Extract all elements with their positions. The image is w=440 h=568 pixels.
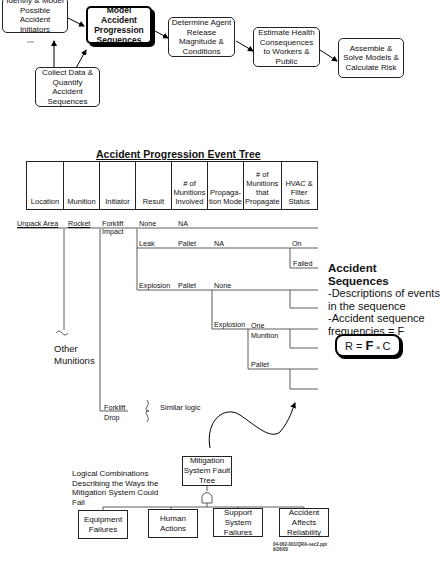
event-tree-title: Accident Progression Event Tree [96, 148, 261, 160]
flow-box-risk: Assemble & Solve Models & Calculate Risk [338, 38, 404, 78]
label-one-munition: One Munition [251, 321, 287, 341]
label-result-leak: Leak [139, 240, 155, 248]
fault-tree-child-reliability: Accident Affects Reliability [279, 508, 329, 537]
fault-tree-child-text: Support System Failures [214, 508, 262, 538]
label-similar-logic: Similar logic [160, 404, 200, 412]
label-result-none: None [139, 220, 156, 228]
column-header: Munition [64, 162, 100, 210]
fault-tree-child-support: Support System Failures [213, 508, 263, 537]
column-header: Propaga-tion Mode [208, 162, 244, 210]
label-na-1: NA [178, 220, 188, 228]
flow-box-progression: Model Accident Progression Sequences [86, 6, 152, 44]
accident-sequences-block: Accident Sequences -Descriptions of even… [328, 262, 440, 337]
fault-tree-child-text: Accident Affects Reliability [280, 508, 328, 538]
label-na-2: NA [214, 240, 224, 248]
flow-box-release: Determine Agent Release Magnitude & Cond… [168, 17, 235, 57]
footer-date: 9/26/00 [273, 547, 327, 552]
label-initiator-impact: Forklift Impact [102, 220, 132, 236]
label-prop-none: None [214, 282, 231, 290]
flow-box-text: Model Accident Progression Sequences [90, 5, 148, 45]
label-pallet-prop: Pallet [251, 361, 269, 369]
column-header: HVAC & Filter Status [281, 162, 317, 210]
accident-sequences-heading: Accident Sequences [328, 262, 440, 287]
label-munition: Rocket [68, 220, 90, 228]
label-result-explosion: Explosion [139, 282, 170, 290]
accident-sequences-line1: -Descriptions of events in the sequence [328, 287, 440, 312]
column-header: # of Munitions that Propagate [244, 162, 282, 210]
flow-box-data: Collect Data & Quantify Accident Sequenc… [35, 67, 100, 107]
fault-tree-top-text: Mitigation System Fault Tree [183, 456, 231, 486]
label-prop-explosion: Explosion [214, 321, 245, 329]
fault-tree-child-text: Human Actions [149, 514, 197, 534]
risk-equation: R = F × C [335, 334, 401, 357]
flow-box-text: Collect Data & Quantify Accident Sequenc… [38, 68, 97, 106]
label-pallet-explosion: Pallet [178, 282, 196, 290]
flow-box-text: Determine Agent Release Magnitude & Cond… [171, 18, 232, 56]
label-location: Unpack Area [17, 220, 58, 228]
column-header: Location [27, 162, 64, 210]
fault-tree-child-text: Equipment Failures [79, 515, 127, 535]
label-initiator-drop: Forklift Drop [104, 403, 128, 422]
flow-box-text: Assemble & Solve Models & Calculate Risk [341, 44, 401, 73]
equation-c: C [383, 340, 391, 352]
fault-tree-top-box: Mitigation System Fault Tree [182, 456, 232, 486]
flow-box-health: Estimate Health Consequences to Workers … [253, 27, 320, 67]
label-hvac-failed: Failed [293, 260, 313, 268]
label-hvac-on: On [292, 240, 302, 248]
flow-box-text: Estimate Health Consequences to Workers … [256, 28, 317, 66]
footer-note: 04-062-001/QRA-sec2.ppt 9/26/00 [273, 542, 327, 552]
column-header: # of Munitions Involved [172, 162, 208, 210]
column-header: Initiator [100, 162, 136, 210]
fault-tree-note: Logical Combinations Describing the Ways… [72, 469, 172, 507]
label-other-munitions: Other Munitions [54, 343, 98, 367]
flow-box-text: Identify & Model Possible Accident Initi… [5, 0, 65, 34]
equation-times: × [373, 343, 382, 352]
equation-r: R = [345, 340, 365, 352]
fault-tree-child-human: Human Actions [148, 509, 198, 538]
column-header: Result [136, 162, 172, 210]
flow-box-initiators: Identify & Model Possible Accident Initi… [2, 0, 68, 33]
event-tree-header: Location Munition Initiator Result # of … [26, 161, 318, 210]
label-pallet-leak: Pallet [178, 240, 196, 248]
fault-tree-child-equipment: Equipment Failures [78, 510, 128, 539]
